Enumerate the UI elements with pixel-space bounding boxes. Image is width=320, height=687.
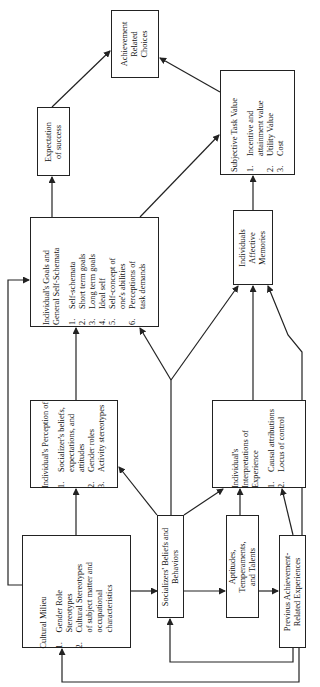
- expectation-title: Expectation of success: [44, 122, 64, 162]
- list-item: 2.Utility Value: [266, 74, 276, 172]
- list-item: 1.Incentive and attainment value: [246, 74, 266, 172]
- previous-achievement-title: Previous Achievement- Related Experience…: [283, 552, 303, 630]
- socializers-beliefs-title: Socializers' Beliefs and Behaviors: [161, 527, 181, 605]
- list-item: 6.Perceptions of task demands: [128, 219, 148, 325]
- affective-memories-title: Individuals Affective Memories: [238, 229, 268, 267]
- affective-memories-box: Individuals Affective Memories: [233, 210, 273, 285]
- list-item: 2.Gender roles: [87, 400, 97, 488]
- interpretations-title: Individual's Interpretations of Experien…: [231, 400, 261, 488]
- task-value-title: Subjective Task Value: [230, 74, 240, 172]
- list-item: 1.Causal attributions: [267, 400, 277, 488]
- cultural-milieu-box: Cultural Milieu 1.Gender Role Stereotype…: [22, 535, 131, 648]
- interpretations-box: Individual's Interpretations of Experien…: [212, 400, 306, 488]
- list-item: 3.Activity stereotypes: [97, 400, 107, 488]
- subjective-task-value-box: Subjective Task Value 1.Incentive and at…: [220, 70, 295, 175]
- list-item: 3.Cost: [276, 74, 286, 172]
- list-item: 1.Self-schemata: [68, 219, 78, 325]
- list-item: 3.Long term goals: [88, 219, 98, 325]
- expectation-success-box: Expectation of success: [37, 107, 70, 176]
- list-item: 1.Gender Role Stereotypes: [55, 535, 75, 648]
- achievement-choices-box: Achievement Related Choices: [111, 10, 159, 78]
- list-item: 1.Socializer's beliefs, expectations, an…: [57, 400, 87, 488]
- list-item: 5.Self-concept of one's abilities: [108, 219, 128, 325]
- aptitudes-box: Aptitudes, Temperaments, and Talents: [226, 515, 259, 618]
- socializers-beliefs-box: Socializers' Beliefs and Behaviors: [157, 515, 184, 618]
- goals-title: Individual's Goals and General Self-Sche…: [42, 219, 62, 325]
- perception-title: Individual's Perception of: [41, 400, 51, 488]
- goals-self-schemata-box: Individual's Goals and General Self-Sche…: [30, 217, 159, 327]
- cultural-milieu-title: Cultural Milieu: [39, 535, 49, 648]
- list-item: 2.Cultural Stereotypes of subject matter…: [75, 535, 115, 648]
- aptitudes-title: Aptitudes, Temperaments, and Talents: [228, 541, 258, 592]
- previous-achievement-box: Previous Achievement- Related Experience…: [279, 535, 306, 648]
- achievement-choices-title: Achievement Related Choices: [120, 22, 150, 67]
- list-item: 4.Ideal self: [98, 219, 108, 325]
- perception-box: Individual's Perception of 1.Socializer'…: [30, 400, 118, 488]
- list-item: 2.Short term goals: [78, 219, 88, 325]
- list-item: 2.Locus of control: [277, 400, 287, 488]
